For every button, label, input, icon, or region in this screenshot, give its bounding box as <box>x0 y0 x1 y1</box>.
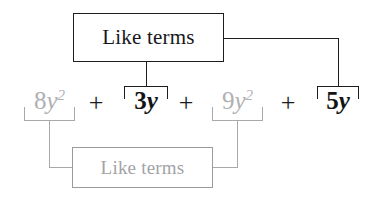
like-terms-diagram: Like terms 8y2 + 3y + <box>0 0 374 197</box>
connector-left-into-bottombox <box>49 167 73 168</box>
connector-8y2-to-bottombox <box>49 120 50 168</box>
term-8y2: 8y2 <box>24 88 75 118</box>
connector-topbox-to-3y <box>146 62 147 86</box>
term-5y-coefficient: 5 <box>326 88 339 113</box>
term-8y2-exponent: 2 <box>58 88 66 103</box>
top-like-terms-label: Like terms <box>102 27 194 48</box>
term-9y2-exponent: 2 <box>246 88 254 103</box>
connector-topbox-to-right <box>224 38 339 39</box>
bottom-like-terms-label: Like terms <box>101 158 185 177</box>
operator-plus-2: + <box>174 88 198 118</box>
connector-right-down-to-5y <box>338 38 339 87</box>
term-5y: 5y <box>317 88 359 118</box>
term-3y: 3y <box>124 88 168 118</box>
term-9y2-variable: y <box>234 88 245 113</box>
operator-plus-1: + <box>84 88 108 118</box>
term-8y2-variable: y <box>46 88 57 113</box>
term-5y-variable: y <box>339 88 350 113</box>
term-3y-variable: y <box>147 88 158 113</box>
connector-right-into-bottombox <box>213 167 238 168</box>
term-9y2-coefficient: 9 <box>222 88 235 113</box>
term-8y2-coefficient: 8 <box>34 88 47 113</box>
bottom-like-terms-box: Like terms <box>72 147 213 188</box>
term-9y2: 9y2 <box>212 88 263 118</box>
top-like-terms-box: Like terms <box>73 13 224 62</box>
operator-plus-3: + <box>276 88 300 118</box>
term-3y-coefficient: 3 <box>134 88 147 113</box>
connector-9y2-to-bottombox <box>237 120 238 168</box>
